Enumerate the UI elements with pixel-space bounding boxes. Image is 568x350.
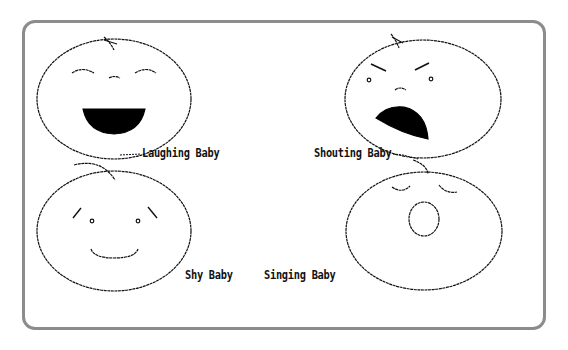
laughing-label-leader [120,154,141,155]
shouting-label-leader [393,154,418,159]
label-leader-lines [0,0,568,350]
